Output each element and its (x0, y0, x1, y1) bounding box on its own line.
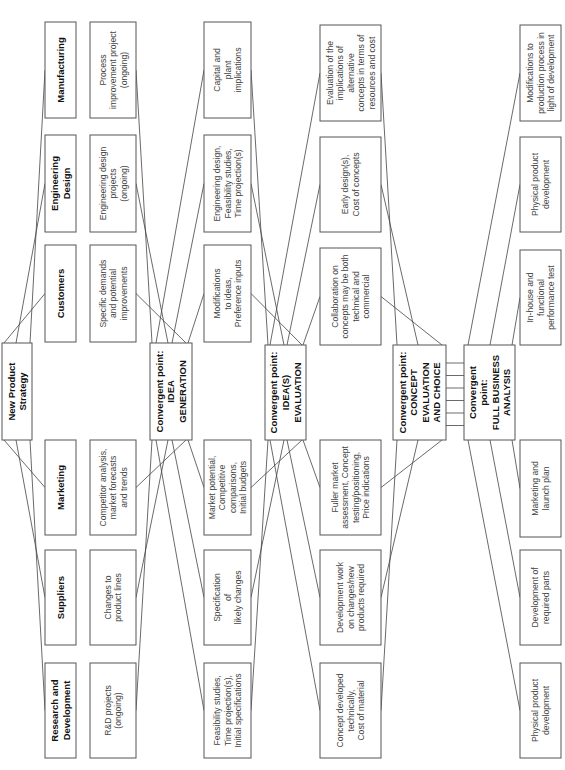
idea-screening-box-marketing-label-line: Competitive (217, 465, 227, 511)
concept-input-box-marketing-label-line: assessment, Concept (340, 446, 350, 529)
idea-evaluation-to-input3-rd (270, 440, 320, 711)
idea-input-box-suppliers: Changes toproduct lines (90, 550, 136, 645)
idea-evaluation-to-input3-engineering (287, 185, 320, 346)
development-output-box-manufacturing-label-line: Modifications to (525, 43, 535, 103)
idea-screening-box-suppliers-label-line: likely changes (233, 571, 243, 625)
input3-to-concept-evaluation-engineering (381, 185, 418, 346)
idea-input-box-manufacturing-label-line: Process (98, 54, 108, 85)
concept-input-box-rd: Concept developedtechnically,Cost of mat… (320, 663, 381, 758)
convergent-idea-evaluation-box-label-line: EVALUATION (292, 362, 303, 422)
development-output-box-engineering: Physical productdevelopment (520, 137, 561, 232)
idea-screening-box-customers-label-line: Preference inputs (233, 260, 243, 327)
concept-input-box-rd-label-line: technically, (346, 690, 356, 732)
development-output-box-rd-label-line: development (541, 685, 551, 735)
idea-input-box-rd-label-line: (ongoing) (113, 692, 123, 728)
idea-input-box-customers: Specific demandsand potentialimprovement… (90, 245, 136, 342)
idea-evaluation-to-input3-marketing (303, 440, 320, 488)
idea-screening-box-engineering: Engineering design,Feasibility studies,T… (204, 135, 251, 232)
development-output-box-suppliers-label-line: required parts (541, 571, 551, 624)
idea-input-box-manufacturing-label-line: (ongoing) (119, 52, 129, 88)
input3-to-concept-evaluation-marketing (381, 440, 442, 488)
concept-input-box-suppliers-label-line: products required (356, 564, 366, 631)
input1-to-idea-generation-manufacturing (136, 70, 152, 343)
idea-input-box-rd-label-line: R&D projects (103, 685, 113, 736)
idea-screening-box-manufacturing-label-line: Capital and (212, 48, 222, 92)
department-box-engineering-label-line: Design (61, 167, 72, 199)
strategy-to-rd (30, 440, 45, 711)
concept-input-box-rd-label-line: Cost of material (356, 680, 366, 740)
idea-input-box-marketing: Competitor analysis,market forecastsand … (90, 440, 136, 535)
input2-to-idea-evaluation-manufacturing (251, 70, 268, 345)
idea-input-box-engineering-label-line: Engineering design (98, 146, 108, 220)
idea-input-box-marketing-label-line: Competitor analysis, (98, 449, 108, 527)
development-output-box-engineering-label-line: Physical product (530, 152, 540, 216)
idea-input-box-engineering: Engineering designprojects(ongoing) (90, 135, 136, 232)
strategy-to-engineering (16, 184, 45, 344)
idea-input-box-engineering-label-line: (ongoing) (119, 165, 129, 201)
idea-screening-box-manufacturing: Capital andplantimplications (204, 22, 251, 118)
business-analysis-to-output-marketing (512, 440, 520, 489)
concept-input-box-marketing-label-line: Fuller market (330, 462, 340, 513)
development-output-box-marketing-label-line: launch plan (541, 466, 551, 510)
convergent-idea-generation-box-label-line: GENERATION (177, 360, 188, 423)
idea-screening-box-rd-label-line: Initial specifications (233, 673, 243, 747)
input3-to-concept-evaluation-suppliers (381, 440, 418, 598)
idea-evaluation-to-input3-customers (303, 297, 320, 346)
idea-screening-box-marketing-label-line: Market potential, (207, 456, 217, 520)
new-product-development-diagram: New ProductStrategyResearch andDevelopme… (0, 0, 565, 770)
concept-input-box-customers-label-line: technical and (351, 271, 361, 322)
input1-to-idea-generation-engineering (136, 184, 168, 344)
convergent-idea-generation-box-label-line: Convergent point: (154, 351, 165, 433)
convergent-business-analysis-box-label-line: point: (478, 379, 489, 405)
idea-input-box-engineering-label-line: projects (108, 168, 118, 198)
idea-screening-box-suppliers-label-line: of (223, 593, 233, 601)
department-box-customers-label-line: Customers (55, 269, 66, 319)
concept-input-box-manufacturing-label-line: implications of (335, 45, 345, 100)
business-analysis-to-output-manufacturing (468, 73, 520, 345)
department-box-engineering: EngineeringDesign (45, 135, 76, 232)
department-box-manufacturing: Manufacturing (45, 22, 76, 118)
development-output-box-customers-label-line: performance test (546, 265, 556, 330)
development-output-box-suppliers-label-line: Development of (530, 567, 540, 628)
idea-input-box-suppliers-label-line: Changes to (103, 575, 113, 619)
business-analysis-to-output-customers (512, 298, 520, 346)
development-output-box-customers-label-line: In-house and (525, 272, 535, 322)
input2-to-idea-evaluation-marketing (251, 440, 302, 488)
new-product-strategy-box: New ProductStrategy (2, 343, 32, 440)
new-product-strategy-box-label-line: Strategy (17, 372, 28, 411)
idea-screening-box-rd: Feasibility studies,Time projection(s),I… (204, 663, 251, 758)
development-output-box-engineering-label-line: development (541, 159, 551, 209)
concept-input-box-customers-label-line: Collaboration on (330, 265, 340, 328)
concept-input-box-customers-label-line: commercial (361, 274, 371, 318)
department-box-rd-label-line: Research and (49, 679, 60, 742)
convergent-idea-evaluation-box-label-line: Convergent point: (268, 352, 279, 434)
strategy-to-marketing (4, 440, 45, 488)
development-output-box-customers: In-house andfunctionalperformance test (520, 250, 561, 345)
idea-screening-box-suppliers-label-line: Specification (212, 573, 222, 622)
concept-input-box-engineering-label-line: Early design(s), (340, 155, 350, 215)
idea-input-box-manufacturing: Processimprovement project(ongoing) (90, 22, 136, 118)
convergent-idea-generation-box: Convergent point:IDEAGENERATION (150, 343, 192, 440)
concept-input-box-manufacturing-label-line: alternative (346, 53, 356, 93)
diagram-boxes: New ProductStrategyResearch andDevelopme… (2, 22, 561, 758)
development-output-box-rd-label-line: Physical product (530, 678, 540, 742)
new-product-strategy-box-label-line: New Product (6, 362, 17, 421)
idea-input-box-marketing-label-line: market forecasts (108, 456, 118, 520)
idea-screening-box-customers-label-line: Modifications (212, 268, 222, 318)
concept-input-box-engineering: Early design(s),Cost of concepts (320, 137, 381, 232)
concept-input-box-customers-label-line: concepts may be both (340, 254, 350, 338)
department-box-marketing: Marketing (45, 440, 76, 535)
input2-to-idea-evaluation-suppliers (251, 440, 284, 598)
convergent-idea-generation-box-label-line: IDEA (165, 380, 176, 403)
idea-screening-box-engineering-label-line: Engineering design, (212, 146, 222, 222)
development-output-box-marketing-label-line: Marketing and (530, 461, 540, 516)
input1-to-idea-generation-rd (136, 440, 152, 711)
convergent-concept-evaluation-box-label-line: CONCEPT (408, 369, 419, 416)
idea-screening-box-customers: Modificationsto ideas,Preference inputs (204, 245, 251, 342)
concept-input-box-marketing-label-line: testing/positioning, (351, 452, 361, 523)
input2-to-idea-evaluation-customers (251, 294, 302, 346)
department-box-rd-label-line: Development (61, 680, 72, 740)
business-analysis-to-output-rd (468, 440, 520, 711)
development-output-box-suppliers: Development ofrequired parts (520, 550, 561, 645)
development-output-box-manufacturing-label-line: light of development (546, 34, 556, 112)
